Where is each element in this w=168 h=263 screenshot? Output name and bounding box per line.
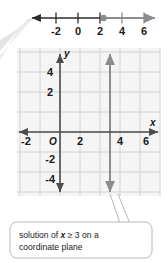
callout-box <box>10 222 152 258</box>
x-tick-label-3: 6 <box>143 135 149 147</box>
y-tick-label-3: -4 <box>45 173 56 185</box>
callout-text-seg1: solution of <box>19 230 61 240</box>
x-tick-label-0: -2 <box>21 135 31 147</box>
y-tick-label-1: 2 <box>47 86 53 98</box>
grid-background <box>17 48 160 196</box>
math-figure: -2 0 2 4 6 <box>0 0 168 263</box>
y-tick-label-0: 4 <box>47 66 54 78</box>
x-tick-label-1: 2 <box>77 135 83 147</box>
numberline-tick-label-3: 4 <box>119 25 126 37</box>
y-tick-label-2: -2 <box>45 153 55 165</box>
callout-text-line2: coordinate plane <box>19 242 83 252</box>
numberline-point <box>100 15 106 21</box>
number-line: -2 0 2 4 6 <box>32 13 155 38</box>
numberline-tick-label-0: -2 <box>51 25 61 37</box>
callout-text-seg2: ≥ 3 on a <box>65 230 99 240</box>
x-axis-label: x <box>149 117 156 128</box>
figure-container: -2 0 2 4 6 <box>0 0 168 263</box>
x-tick-label-2: 4 <box>117 135 124 147</box>
numberline-tick-label-1: 0 <box>75 25 81 37</box>
y-axis-label: y <box>63 48 70 59</box>
coordinate-plane: y x O -2 2 4 6 4 2 -2 -4 <box>17 48 160 196</box>
numberline-tick-label-4: 6 <box>141 25 147 37</box>
callout-text-line1: solution of x ≥ 3 on a <box>19 230 99 240</box>
numberline-tick-label-2: 2 <box>97 25 103 37</box>
callout-leader-line <box>110 194 132 226</box>
origin-label: O <box>49 136 57 147</box>
